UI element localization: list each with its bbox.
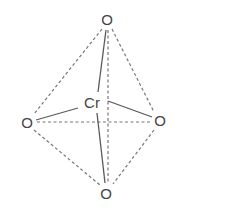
bond-cr-left — [36, 108, 78, 120]
bond-cr-right — [108, 101, 152, 117]
atom-top-oxygen: O — [101, 11, 113, 28]
atom-center-chromium: Cr — [84, 94, 100, 111]
edge-right-bottom — [113, 130, 154, 184]
bond-cr-bottom — [97, 113, 105, 183]
bond-cr-top — [98, 30, 106, 92]
atom-left-oxygen: O — [21, 114, 33, 131]
atom-bottom-oxygen: O — [100, 185, 112, 202]
cro4-tetrahedron-diagram: O O O O Cr — [0, 0, 252, 210]
edge-left-bottom — [34, 130, 100, 185]
atom-right-oxygen: O — [154, 112, 166, 129]
edge-top-right — [112, 29, 154, 112]
